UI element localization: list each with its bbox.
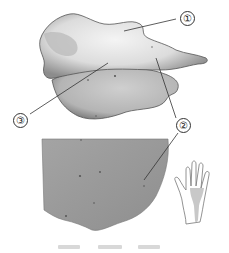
callout-label-1: ① (180, 11, 195, 26)
callout-label-2: ② (176, 118, 191, 133)
specimen-top (40, 14, 208, 119)
callout-label-3: ③ (13, 113, 28, 128)
caption-fragment (98, 245, 122, 249)
caption-fragment (138, 245, 160, 249)
caption-fragment (58, 245, 80, 249)
hand-icon (175, 161, 209, 224)
specimen-surface-closeup (42, 139, 168, 230)
specimen-illustration (0, 0, 229, 253)
